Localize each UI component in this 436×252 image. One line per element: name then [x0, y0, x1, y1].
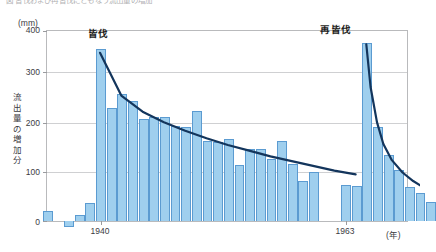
bar-1942	[117, 94, 127, 221]
bar-1970	[416, 193, 426, 221]
y-axis-title: 流 出 量 の 増 加 分	[12, 92, 23, 166]
bar-1955	[256, 149, 266, 221]
bar-1935	[43, 211, 53, 221]
bar-1967	[384, 155, 394, 222]
bar-1948	[181, 127, 191, 221]
bar-1949	[192, 111, 202, 221]
bar-1969	[405, 187, 415, 221]
bar-1952	[224, 139, 234, 221]
x-tick-label-1940: 1940	[91, 226, 110, 236]
bar-1956	[267, 159, 277, 221]
y-tick-label-0: 0	[14, 217, 40, 227]
bar-1953	[235, 165, 245, 221]
bar-1950	[203, 141, 213, 221]
bar-1971	[426, 202, 436, 221]
y-axis-title-char: 出	[12, 103, 23, 114]
y-tick-label-100: 100	[14, 167, 40, 177]
annotation-clearcut: 皆伐	[88, 26, 109, 40]
bar-1945	[149, 117, 159, 222]
bar-1938	[75, 215, 85, 221]
bar-1954	[245, 149, 255, 221]
y-tick-label-400: 400	[14, 25, 40, 35]
y-tick-label-200: 200	[14, 118, 40, 128]
x-axis-unit: (年)	[386, 228, 401, 240]
bar-1946	[160, 117, 170, 221]
x-tick-1940	[101, 221, 102, 225]
bar-1966	[373, 127, 383, 221]
y-axis-title-char: 増	[12, 134, 23, 145]
bar-1963	[341, 185, 351, 221]
annotation-re-clearcut: 再皆伐	[320, 22, 352, 36]
bar-series	[47, 31, 407, 221]
y-tick-0	[43, 221, 47, 222]
y-axis-title-char: 分	[12, 155, 23, 166]
y-tick-label-300: 300	[14, 67, 40, 77]
bar-1959	[298, 181, 308, 221]
plot-area	[46, 30, 408, 222]
bar-1947	[171, 126, 181, 221]
bar-1960	[309, 172, 319, 221]
bar-1937	[64, 221, 74, 227]
bar-1943	[128, 101, 138, 221]
y-axis-title-char: 加	[12, 145, 23, 156]
x-tick-label-1963: 1963	[336, 226, 355, 236]
x-tick-1963	[346, 221, 347, 225]
bar-1958	[288, 164, 298, 221]
bar-1951	[213, 142, 223, 221]
bar-1957	[277, 141, 287, 221]
bar-1968	[394, 170, 404, 221]
bar-1965	[362, 43, 372, 221]
bar-1939	[85, 203, 95, 221]
y-axis-title-char: 流	[12, 92, 23, 103]
bar-1964	[352, 186, 362, 221]
figure-caption: 図 皆伐および再皆伐にともなう流出量の増加	[6, 0, 152, 5]
bar-1940	[96, 49, 106, 221]
bar-1944	[139, 119, 149, 221]
bar-1941	[107, 108, 117, 221]
